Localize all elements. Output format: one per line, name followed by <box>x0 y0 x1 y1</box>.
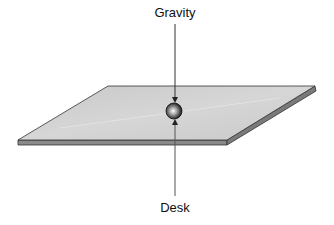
diagram-canvas <box>0 0 334 225</box>
desk-label: Desk <box>160 200 190 215</box>
desk-front-edge <box>18 140 227 145</box>
gravity-label: Gravity <box>154 5 195 20</box>
ball-object <box>166 103 182 119</box>
